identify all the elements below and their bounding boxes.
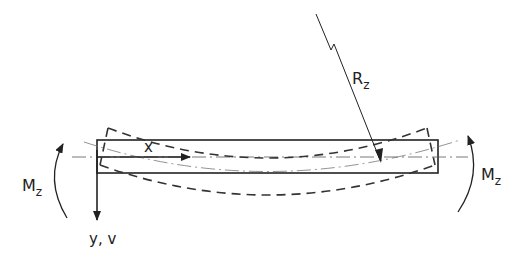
radius-label: Rz [352, 69, 369, 92]
moment-left-arc [54, 144, 67, 218]
y-axis-label: y, v [89, 230, 116, 248]
deformed-neutral-axis [84, 140, 460, 172]
beam-bending-diagram: x y, v Mz Mz Rz [0, 0, 526, 259]
moment-right-arc [458, 136, 474, 212]
moment-left-label: Mz [22, 176, 42, 199]
radius-line [316, 14, 380, 160]
x-axis-label: x [144, 138, 153, 156]
moment-right-label: Mz [481, 165, 501, 188]
